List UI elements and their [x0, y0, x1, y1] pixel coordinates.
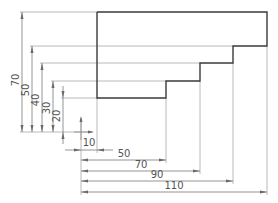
- dimension-110-label: 110: [164, 180, 183, 191]
- dimension-50-horizontal-label: 50: [118, 148, 131, 159]
- dimension-30: 30: [41, 81, 55, 132]
- dimension-110: 110: [81, 180, 267, 194]
- dimension-10-label: 10: [83, 137, 96, 148]
- stepped-part-drawing: 70 50 40 30 20 10 50: [0, 0, 278, 203]
- vertical-extension-lines: [81, 46, 267, 195]
- dimension-40-label: 40: [30, 94, 41, 107]
- dimension-20-label: 20: [51, 110, 62, 123]
- dimension-70: 70: [10, 12, 24, 132]
- part-outline: [97, 12, 267, 98]
- dimension-10: 10: [65, 137, 113, 152]
- dimension-70-horizontal-label: 70: [135, 159, 148, 170]
- dimension-90-label: 90: [151, 169, 164, 180]
- dimension-70-horizontal: 70: [81, 159, 200, 173]
